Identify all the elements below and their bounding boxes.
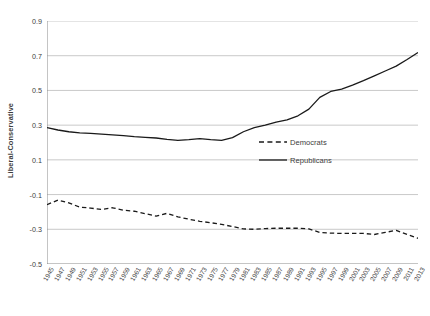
legend-item-republicans: Republicans <box>258 151 364 169</box>
legend-label-republicans: Republicans <box>288 156 332 165</box>
chart-legend: Democrats Republicans <box>258 133 364 169</box>
legend-swatch-dashed-icon <box>258 137 288 147</box>
y-axis-tick-label: 0.3 <box>32 121 42 130</box>
legend-label-democrats: Democrats <box>288 138 327 147</box>
y-axis-tick-label: -0.1 <box>30 190 42 199</box>
y-axis-tick-label: 0.1 <box>32 155 42 164</box>
series-line-republicans <box>47 53 418 141</box>
x-axis-tick-labels: 1945194719491951195319551957195919611963… <box>47 266 418 316</box>
y-axis-tick-label: -0.5 <box>30 260 42 269</box>
series-line-democrats <box>47 200 418 238</box>
y-axis-tick-label: -0.3 <box>30 225 42 234</box>
y-axis-tick-labels: -0.5-0.3-0.10.10.30.50.70.9 <box>0 0 46 316</box>
legend-item-democrats: Democrats <box>258 133 364 151</box>
legend-swatch-solid-icon <box>258 155 288 165</box>
chart-container: Liberal-Conservative -0.5-0.3-0.10.10.30… <box>0 0 430 316</box>
y-axis-tick-label: 0.7 <box>32 51 42 60</box>
y-axis-tick-label: 0.9 <box>32 17 42 26</box>
y-axis-tick-label: 0.5 <box>32 86 42 95</box>
gridlines <box>47 21 418 229</box>
